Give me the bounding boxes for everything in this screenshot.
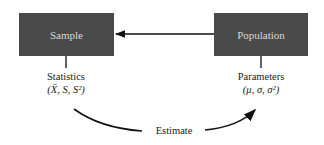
population-box: Population [214,13,308,56]
statistics-label: Statistics (X̄, S, S²) [26,70,106,96]
parameters-label: Parameters (μ, σ, σ²) [221,70,301,96]
sample-label: Sample [50,29,83,41]
parameters-title: Parameters [221,70,301,83]
estimate-curve-left [74,109,142,131]
estimate-curve-right [205,110,255,130]
sample-box: Sample [19,13,114,56]
estimate-label: Estimate [146,124,202,137]
statistics-symbols: (X̄, S, S²) [26,83,106,96]
population-label: Population [237,29,285,41]
statistics-title: Statistics [26,70,106,83]
parameters-symbols: (μ, σ, σ²) [221,83,301,96]
